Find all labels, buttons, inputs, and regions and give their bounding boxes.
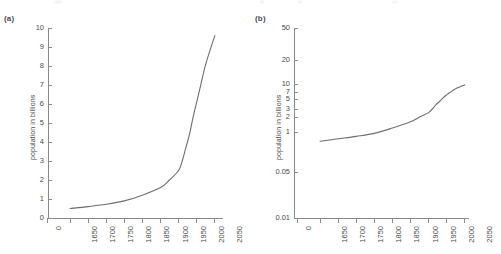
x-tick-label: 1850: [163, 226, 171, 243]
y-tick-label: 5: [8, 119, 44, 127]
y-tick-label: 0: [8, 214, 44, 222]
chart-panel-a: (a) population in billions 012345678910 …: [0, 0, 250, 254]
chart-panel-b: (b) population in billions 0.010.0512357…: [250, 0, 500, 254]
y-tick-label: 4: [8, 138, 44, 146]
x-tick-label: 2050: [485, 226, 493, 243]
x-tick-label: 0: [55, 226, 63, 230]
y-tick-label: 5: [254, 95, 290, 103]
axes-group-a: [47, 28, 223, 223]
y-tick-label: 3: [8, 157, 44, 165]
x-tick-label: 1950: [199, 226, 207, 243]
y-tick-label: 10: [254, 80, 290, 88]
population-curve-a: [70, 36, 215, 209]
y-tick-label: 2: [254, 113, 290, 121]
population-growth-figure: (a) population in billions 012345678910 …: [0, 0, 501, 254]
x-tick-label: 0: [305, 226, 313, 230]
y-tick-label: 1: [254, 128, 290, 136]
y-tick-label: 2: [8, 176, 44, 184]
y-tick-label: 9: [8, 43, 44, 51]
x-tick-label: 2000: [217, 226, 225, 243]
x-tick-label: 1650: [91, 226, 99, 243]
x-tick-label: 1900: [431, 226, 439, 243]
scan-artifact: [0, 0, 501, 7]
x-tick-label: 2050: [235, 226, 243, 243]
x-tick-label: 1700: [359, 226, 367, 243]
x-tick-label: 1850: [413, 226, 421, 243]
x-tick-label: 1750: [377, 226, 385, 243]
y-tick-label: 6: [8, 100, 44, 108]
y-tick-label: 1: [8, 195, 44, 203]
x-tick-label: 1700: [109, 226, 117, 243]
y-tick-label: 7: [254, 88, 290, 96]
y-tick-label: 10: [8, 24, 44, 32]
y-tick-label: 3: [254, 105, 290, 113]
x-tick-label: 2000: [467, 226, 475, 243]
x-tick-label: 1800: [395, 226, 403, 243]
y-tick-label: 8: [8, 62, 44, 70]
x-tick-label: 1800: [145, 226, 153, 243]
population-curve-b: [320, 85, 465, 141]
x-tick-label: 1750: [127, 226, 135, 243]
y-tick-label: 20: [254, 56, 290, 64]
y-tick-label: 50: [254, 24, 290, 32]
x-tick-label: 1650: [341, 226, 349, 243]
x-tick-label: 1900: [181, 226, 189, 243]
y-tick-label: 0.01: [254, 214, 290, 222]
y-tick-label: 0.05: [254, 168, 290, 176]
axes-group-b: [294, 28, 469, 223]
x-tick-label: 1950: [449, 226, 457, 243]
y-tick-label: 7: [8, 81, 44, 89]
